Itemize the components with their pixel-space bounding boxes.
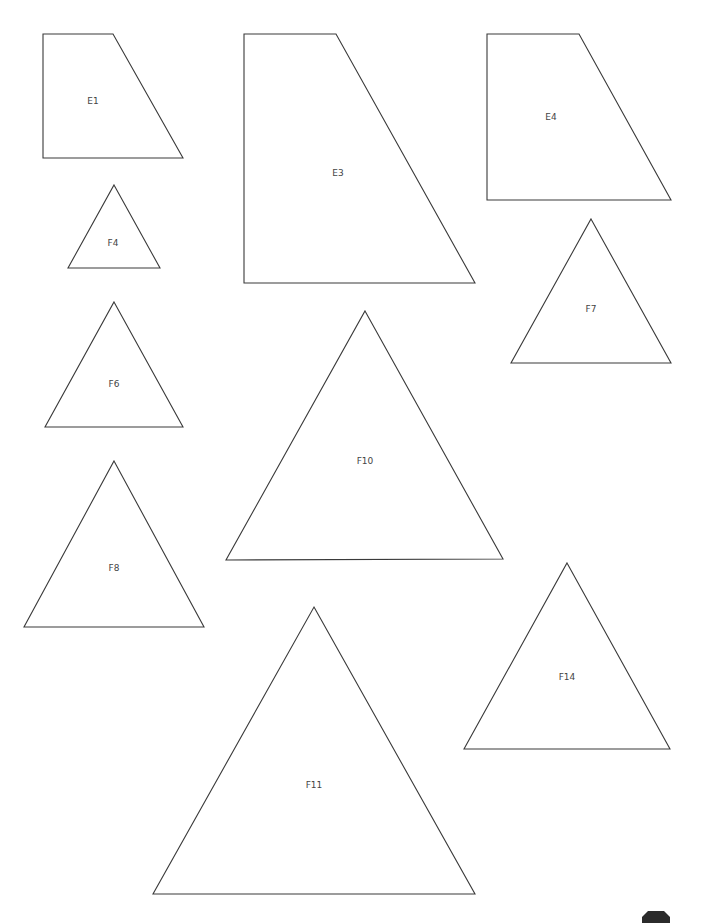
shape-label: F4 [108,238,119,248]
triangle-outline [45,302,183,427]
triangle-outline [464,563,670,749]
shapes-layer: E1E3E4F4F6F7F8F10F11F14 [24,34,671,894]
shape-f14: F14 [464,563,670,749]
trapezoid-outline [487,34,671,200]
triangle-outline [226,311,503,560]
shape-label: F11 [306,780,323,790]
trapezoid-outline [43,34,183,158]
shape-f7: F7 [511,219,671,363]
triangle-outline [24,461,204,627]
triangle-outline [68,185,160,268]
shape-label: F6 [109,379,120,389]
shape-label: F8 [109,563,120,573]
shape-label: E4 [545,112,557,122]
shape-e4: E4 [487,34,671,200]
shape-f4: F4 [68,185,160,268]
shape-label: E1 [87,96,98,106]
shape-f10: F10 [226,311,503,560]
octagon-badge-icon [642,911,670,923]
shape-label: F7 [586,304,597,314]
shape-label: F14 [559,672,576,682]
shape-f6: F6 [45,302,183,427]
shape-e1: E1 [43,34,183,158]
triangle-outline [153,607,475,894]
shape-label: E3 [332,168,343,178]
shape-e3: E3 [244,34,475,283]
shape-f11: F11 [153,607,475,894]
shape-label: F10 [357,456,374,466]
trapezoid-outline [244,34,475,283]
triangle-outline [511,219,671,363]
shape-f8: F8 [24,461,204,627]
pattern-sheet: E1E3E4F4F6F7F8F10F11F14 [0,0,702,923]
